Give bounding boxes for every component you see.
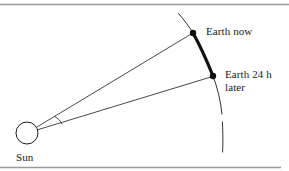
orbit-arc-travelled-segment bbox=[193, 33, 213, 76]
earth-24h-later-marker bbox=[210, 73, 216, 79]
earth-24h-later-label: Earth 24 hlater bbox=[225, 68, 272, 93]
sight-line-to-earth-now bbox=[27, 34, 192, 134]
earth-now-label: Earth now bbox=[206, 25, 252, 38]
figure-root: Earth now Earth 24 hlater Sun bbox=[0, 0, 289, 171]
sun-circle bbox=[16, 122, 38, 144]
earth-now-marker bbox=[190, 30, 196, 36]
earth-24h-later-label-line1: Earth 24 h bbox=[225, 68, 272, 80]
earth-24h-later-label-line2: later bbox=[225, 81, 245, 93]
sight-line-to-earth-24h-later bbox=[27, 77, 213, 134]
sun-label: Sun bbox=[16, 151, 33, 164]
orbit-arc-upper bbox=[179, 14, 194, 34]
orbit-arc-lower-a bbox=[213, 76, 222, 114]
